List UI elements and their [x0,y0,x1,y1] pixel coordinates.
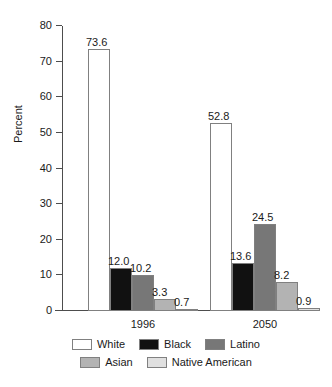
bar-group: 52.813.624.58.20.92050 [210,26,320,311]
y-axis-tick: 60 [56,96,62,97]
bar-rect: 3.3 [154,299,176,311]
y-axis-tick-label: 80 [40,17,52,33]
y-axis-tick: 40 [56,168,62,169]
bar-native-american[interactable]: 0.9 [298,26,320,311]
bar-white[interactable]: 52.8 [210,26,232,311]
y-axis-tick-label: 30 [40,195,52,211]
y-axis-line [62,26,63,311]
bar-value-label: 12.0 [108,255,129,268]
x-axis-category-label: 1996 [88,317,198,331]
bar-latino[interactable]: 24.5 [254,26,276,311]
bar-value-label: 73.6 [86,36,107,49]
bar-rect: 73.6 [88,49,110,311]
bar-value-label: 0.9 [296,295,311,308]
bar-value-label: 24.5 [252,211,273,224]
y-axis-tick-label: 40 [40,160,52,176]
legend-item-white[interactable]: White [72,338,125,351]
bar-rect: 13.6 [232,263,254,311]
bar-group: 73.612.010.23.30.71996 [88,26,198,311]
legend-swatch [72,339,92,350]
y-axis-tick-label: 20 [40,231,52,247]
bar-rect: 10.2 [132,275,154,311]
legend-swatch [147,357,167,368]
y-axis-tick-label: 10 [40,266,52,282]
y-axis-tick: 70 [56,61,62,62]
legend-row: WhiteBlackLatino [0,335,332,353]
bar-value-label: 3.3 [152,286,167,299]
legend-swatch [139,339,159,350]
legend-label: Asian [105,356,133,369]
legend-item-latino[interactable]: Latino [205,338,260,351]
bar-asian[interactable]: 3.3 [154,26,176,311]
y-axis-tick: 0 [56,310,62,311]
legend-item-black[interactable]: Black [139,338,191,351]
bar-rect: 0.9 [298,308,320,311]
bar-rect: 24.5 [254,224,276,311]
legend-swatch [80,357,100,368]
bar-value-label: 8.2 [274,269,289,282]
bar-value-label: 10.2 [130,262,151,275]
bar-rect: 12.0 [110,268,132,311]
legend-label: Black [164,338,191,351]
y-axis-title: Percent [12,105,24,143]
bar-asian[interactable]: 8.2 [276,26,298,311]
bar-rect: 52.8 [210,123,232,311]
legend-label: Native American [172,356,252,369]
y-axis-tick: 50 [56,132,62,133]
legend-item-asian[interactable]: Asian [80,356,133,369]
legend-swatch [205,339,225,350]
bar-native-american[interactable]: 0.7 [176,26,198,311]
bar-white[interactable]: 73.6 [88,26,110,311]
legend-label: Latino [230,338,260,351]
plot-area: 80706050403020100 73.612.010.23.30.71996… [62,26,310,311]
x-axis-category-label: 2050 [210,317,320,331]
bar-black[interactable]: 13.6 [232,26,254,311]
y-axis-tick: 10 [56,274,62,275]
bar-chart: Percent 80706050403020100 73.612.010.23.… [0,0,332,387]
y-axis-tick: 80 [56,25,62,26]
y-axis-tick: 30 [56,203,62,204]
y-axis-tick-label: 0 [46,302,52,318]
y-axis-tick: 20 [56,239,62,240]
bar-value-label: 13.6 [230,250,251,263]
y-axis-tick-label: 70 [40,53,52,69]
legend-row: AsianNative American [0,353,332,371]
bar-rect: 0.7 [176,309,198,311]
legend-label: White [97,338,125,351]
bar-black[interactable]: 12.0 [110,26,132,311]
legend-item-native-american[interactable]: Native American [147,356,252,369]
y-axis-tick-label: 50 [40,124,52,140]
y-axis-tick-label: 60 [40,88,52,104]
bar-value-label: 52.8 [208,110,229,123]
bar-latino[interactable]: 10.2 [132,26,154,311]
chart-legend: WhiteBlackLatinoAsianNative American [0,335,332,371]
bar-value-label: 0.7 [174,296,189,309]
bar-rect: 8.2 [276,282,298,311]
